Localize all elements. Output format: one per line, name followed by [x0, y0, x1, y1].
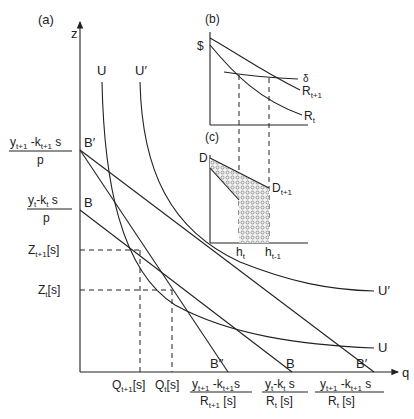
point-B-prime-top: B′: [84, 135, 96, 150]
panel-a-label: (a): [38, 12, 54, 27]
budget-line-B-prime-B-dprime: [80, 150, 228, 372]
R-t1-label: Rt+1: [302, 84, 323, 100]
y-label-mid-fraction: yt-kt s p: [27, 193, 72, 225]
x-label-fraction-1: yt+1 -kt+1s Rt+1 [s]: [190, 377, 252, 410]
svg-text:yt-kt s: yt-kt s: [28, 193, 58, 209]
economics-diagram: (a) z q U U′ U U′ B′ B B″ B B′ yt+1 -kt+…: [0, 0, 414, 419]
x-label-q-t1: Qt+1[s]: [112, 378, 145, 394]
svg-text:p: p: [37, 153, 44, 167]
curve-R-t1: [210, 38, 300, 90]
delta-label: δ: [303, 73, 309, 84]
panel-b-label: (b): [205, 12, 220, 26]
svg-text:yt-kt s: yt-kt s: [265, 377, 295, 393]
panel-a: (a) z q U U′ U U′ B′ B B″ B B′ yt+1 -kt+…: [9, 12, 409, 410]
curve-U-label: U: [97, 63, 106, 78]
x-label-q-t: Qt[s]: [155, 378, 179, 394]
point-B-top: B: [84, 195, 93, 210]
panel-c-y-label: D: [199, 151, 208, 165]
q-axis-label: q: [402, 365, 409, 380]
panel-c-label: (c): [205, 130, 219, 144]
D-t1-label: Dt+1: [272, 181, 293, 197]
x-label-fraction-2: yt-kt s Rt [s]: [262, 377, 308, 410]
svg-text:yt+1 -kt+1s: yt+1 -kt+1s: [192, 377, 240, 393]
shaded-area: [210, 158, 269, 243]
point-B-dprime-bottom: B″: [210, 356, 224, 371]
y-label-z-t: Zt[s]: [38, 283, 60, 299]
svg-text:Rt [s]: Rt [s]: [266, 394, 293, 410]
x-label-fraction-3: yt+1 -kt+1 s Rt [s]: [315, 377, 384, 410]
z-axis-label: z: [71, 26, 78, 41]
curve-U-right-label: U: [378, 340, 387, 355]
svg-text:Rt+1 [s]: Rt+1 [s]: [200, 394, 236, 410]
curve-U-prime-label: U′: [135, 63, 147, 78]
y-label-z-t1: Zt+1[s]: [28, 243, 59, 259]
svg-text:Rt [s]: Rt [s]: [328, 394, 355, 410]
curve-R-t: [210, 45, 302, 115]
svg-text:p: p: [43, 211, 50, 225]
panel-b-y-label: $: [197, 39, 204, 53]
R-t-label: Rt: [304, 109, 316, 125]
y-label-top-fraction: yt+1 -kt+1 s p: [9, 135, 72, 167]
svg-text:yt+1 -kt+1 s: yt+1 -kt+1 s: [10, 135, 61, 151]
point-B-prime-bottom: B′: [356, 356, 368, 371]
svg-text:yt+1 -kt+1 s: yt+1 -kt+1 s: [320, 377, 371, 393]
curve-U-prime-right-label: U′: [378, 283, 390, 298]
panel-c: (c) D Dt+1 ht ht-1: [199, 130, 308, 261]
h-t1-label: ht-1: [265, 245, 282, 261]
h-t-label: ht: [236, 245, 246, 261]
point-B-bottom: B: [286, 356, 295, 371]
